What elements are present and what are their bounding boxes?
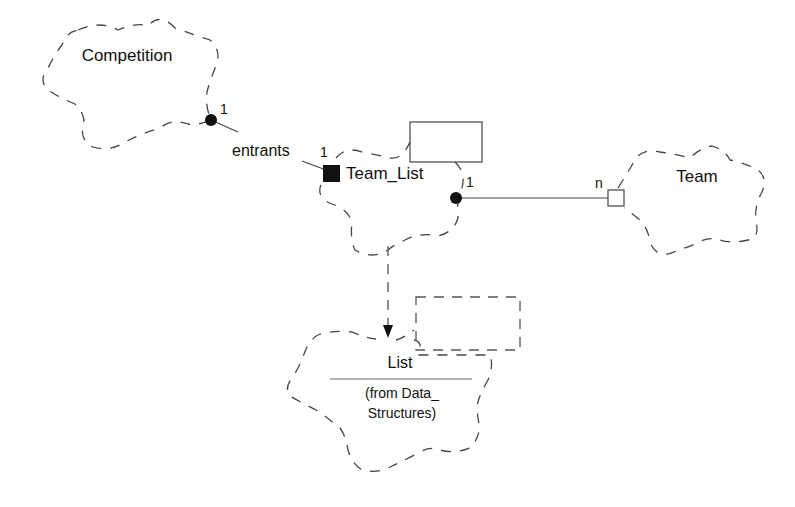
class-competition[interactable]: Competition	[43, 19, 218, 148]
team-cloud-outline	[618, 146, 764, 254]
team-list-class-name: Team_List	[346, 164, 424, 183]
competition-class-name: Competition	[82, 46, 173, 65]
team-list-team-multiplicity: 1	[466, 174, 474, 190]
team-hollow-square-icon	[608, 190, 624, 206]
team-list-entrants-multiplicity: 1	[320, 144, 328, 160]
list-class-name: List	[388, 354, 413, 371]
entrants-line-lower	[302, 161, 326, 170]
class-team[interactable]: Team	[618, 146, 764, 254]
competition-filled-circle-icon	[205, 114, 217, 126]
class-team-list[interactable]: Team_List	[320, 122, 482, 255]
competition-multiplicity: 1	[220, 101, 228, 117]
entrants-role-label: entrants	[232, 142, 290, 159]
team-list-filled-square-icon	[323, 165, 340, 182]
competition-cloud-outline	[43, 19, 218, 148]
diagram-canvas: Competition Team_List Team List (from Da…	[0, 0, 795, 507]
team-list-cloud-outline	[320, 142, 463, 255]
team-multiplicity: n	[595, 175, 603, 191]
association-team-list-team[interactable]: 1 n	[450, 174, 624, 206]
list-package-line1: (from Data_	[365, 385, 439, 401]
team-list-parameter-box	[410, 122, 482, 162]
list-package-line2: Structures)	[368, 405, 436, 421]
list-parameter-box	[416, 297, 520, 350]
association-entrants[interactable]: 1 entrants 1	[205, 101, 340, 182]
instantiation-arrow[interactable]	[383, 246, 393, 338]
arrowhead-icon	[383, 325, 393, 338]
team-class-name: Team	[676, 167, 718, 186]
team-list-filled-circle-icon	[450, 192, 462, 204]
class-list[interactable]: List (from Data_ Structures)	[287, 297, 520, 471]
